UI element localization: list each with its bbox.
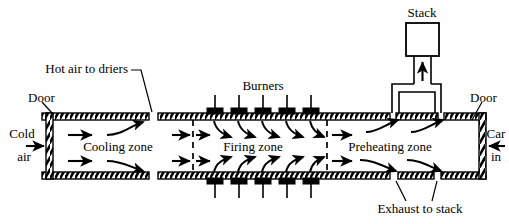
burner-bottom-1 — [207, 178, 223, 198]
burner-top-2 — [231, 95, 247, 114]
cold-air-label-line2: air — [17, 149, 31, 164]
stack-box — [406, 23, 439, 56]
door-left-label: Door — [28, 90, 55, 105]
preheat-curve-upper-right — [411, 120, 443, 132]
cold-air-inlet: Cold air — [9, 126, 44, 164]
door-left[interactable] — [46, 113, 53, 179]
firing-bottom-curve-2 — [238, 157, 255, 172]
preheat-curve-lower-exhaust-b — [407, 160, 441, 171]
cooling-exit-upper-curve — [107, 122, 143, 135]
preheat-curve-upper-hood — [366, 120, 398, 132]
firing-bottom-curve-4 — [286, 157, 303, 172]
preheat-curve-lower-exhaust-a — [360, 160, 396, 171]
firing-top-curve-5 — [310, 121, 324, 137]
left-door-assembly[interactable] — [46, 113, 53, 179]
burner-block — [279, 108, 295, 114]
burner-block — [255, 108, 271, 114]
hood-inner-chamber — [399, 92, 435, 113]
right-door-assembly[interactable] — [479, 113, 486, 179]
top-wall-cooling-segment — [42, 113, 149, 120]
firing-bottom-curve-5 — [310, 157, 324, 172]
cooling-exit-lower-curve — [107, 161, 143, 171]
burner-bottom-2 — [231, 178, 247, 198]
burner-top-4 — [279, 95, 295, 114]
firing-bottom-curve-3 — [262, 157, 279, 172]
zone-label-firing: Firing zone — [223, 139, 283, 154]
stack-label: Stack — [408, 5, 437, 20]
burners-top — [207, 95, 319, 114]
bottom-wall-firing-segment — [158, 172, 390, 179]
car-in-label-line2: in — [491, 149, 502, 164]
zone-label-cooling: Cooling zone — [83, 139, 153, 154]
firing-top-curve-3 — [262, 121, 279, 137]
car-in-label-line1: Car — [487, 126, 506, 141]
top-wall-hood-segment — [396, 113, 438, 120]
door-right-label: Door — [470, 90, 497, 105]
firing-top-curve-4 — [286, 121, 303, 137]
car-in-inlet: Car in — [487, 126, 506, 164]
stack-assembly — [392, 23, 441, 113]
firing-top-curve-2 — [238, 121, 255, 137]
diagram-canvas: Cold air Car in Stack Burners Hot air to… — [0, 0, 509, 224]
bottom-wall-cooling-segment — [42, 172, 149, 179]
burner-bottom-4 — [279, 178, 295, 198]
hot-air-to-driers-label: Hot air to driers — [45, 61, 128, 76]
burner-block — [207, 108, 223, 114]
burner-bottom-3 — [255, 178, 271, 198]
exhaust-to-stack-label: Exhaust to stack — [377, 201, 463, 216]
firing-top-curve-1 — [214, 121, 231, 137]
door-right[interactable] — [479, 113, 486, 179]
burner-top-5 — [303, 95, 319, 114]
hood-outer-outline-right — [431, 84, 441, 113]
burner-bottom-5 — [303, 178, 319, 198]
flow-arrows-firing-top — [214, 121, 324, 137]
hood-outer-outline — [392, 84, 414, 113]
top-wall-firing-segment — [158, 113, 390, 120]
firing-bottom-curve-1 — [214, 157, 231, 172]
burners-bottom — [207, 178, 319, 198]
flow-arrows-firing-bottom — [214, 157, 324, 172]
burner-block — [231, 108, 247, 114]
cold-air-label-line1: Cold — [9, 126, 35, 141]
burner-top-3 — [255, 95, 271, 114]
leader-exhaust-b — [432, 181, 437, 201]
burner-top-1 — [207, 95, 223, 114]
tunnel-kiln-diagram: Cold air Car in Stack Burners Hot air to… — [0, 0, 509, 224]
leader-exhaust-a — [396, 181, 406, 201]
burners-label: Burners — [242, 78, 283, 93]
burner-block — [303, 108, 319, 114]
bottom-wall-exhaust-segment-a — [398, 172, 434, 179]
leader-hot-air — [131, 70, 152, 112]
zone-label-preheating: Preheating zone — [348, 139, 432, 154]
